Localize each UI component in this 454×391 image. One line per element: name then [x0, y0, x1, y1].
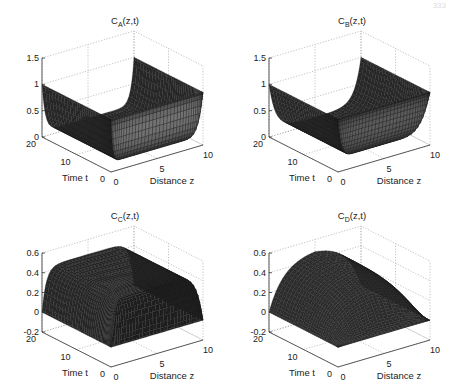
- distance-axis-label: Distance z: [377, 370, 422, 381]
- t-tick-label: 0: [100, 369, 105, 379]
- plot-panel-cd: -0.200.20.40.6010200510Time tDistance zC…: [250, 210, 440, 382]
- t-tick-label: 20: [253, 334, 263, 344]
- z-distance-tick-label: 10: [430, 345, 440, 355]
- plot-title: CD(z,t): [338, 210, 366, 223]
- t-axis-label: Time t: [62, 367, 88, 378]
- z-tick-label: 0.4: [26, 268, 39, 278]
- distance-axis-label: Distance z: [377, 175, 422, 186]
- plot-panel-ca: 00.511.5010200510Time tDistance zCA(z,t): [26, 15, 213, 187]
- t-axis-label: Time t: [289, 367, 315, 378]
- z-tick-label: 0.6: [26, 248, 39, 258]
- t-tick-label: 10: [60, 352, 70, 362]
- surface: [42, 246, 203, 347]
- z-distance-tick-label: 0: [113, 372, 118, 382]
- z-distance-tick-label: 10: [203, 150, 213, 160]
- z-distance-tick-label: 5: [159, 164, 164, 174]
- z-distance-tick-label: 5: [386, 164, 391, 174]
- z-tick-label: 0.4: [253, 268, 266, 278]
- t-tick-label: 10: [287, 352, 297, 362]
- z-tick-label: 1.5: [253, 53, 266, 63]
- z-tick-label: 0.2: [253, 288, 266, 298]
- z-tick-label: 1: [261, 79, 266, 89]
- plot-panel-cc: -0.200.20.40.6010200510Time tDistance zC…: [23, 210, 213, 382]
- z-tick-label: 0.6: [253, 248, 266, 258]
- z-distance-tick-label: 10: [203, 345, 213, 355]
- z-tick-label: 0: [261, 307, 266, 317]
- distance-axis-label: Distance z: [150, 175, 195, 186]
- plot-panel-cb: 00.511.5010200510Time tDistance zCB(z,t): [253, 15, 440, 187]
- t-tick-label: 20: [26, 334, 36, 344]
- plot-title: CA(z,t): [111, 15, 139, 28]
- z-distance-tick-label: 5: [386, 359, 391, 369]
- z-tick-label: 1.5: [26, 53, 39, 63]
- t-tick-label: 0: [327, 174, 332, 184]
- z-tick-label: 0.2: [26, 288, 39, 298]
- plot-title: CB(z,t): [338, 15, 366, 28]
- z-distance-tick-label: 5: [159, 359, 164, 369]
- distance-axis-line: [338, 340, 430, 367]
- t-tick-label: 20: [26, 139, 36, 149]
- t-tick-label: 10: [287, 157, 297, 167]
- figure-canvas: 00.511.5010200510Time tDistance zCA(z,t)…: [0, 0, 454, 391]
- surface: [269, 57, 430, 154]
- z-tick-label: 1: [34, 79, 39, 89]
- t-tick-label: 0: [100, 174, 105, 184]
- z-tick-label: 0.5: [26, 106, 39, 116]
- t-tick-label: 10: [60, 157, 70, 167]
- z-tick-label: 0: [34, 307, 39, 317]
- z-distance-tick-label: 0: [340, 372, 345, 382]
- t-axis-label: Time t: [289, 172, 315, 183]
- surface: [269, 251, 430, 347]
- t-axis-label: Time t: [62, 172, 88, 183]
- distance-axis-line: [111, 340, 203, 367]
- t-tick-label: 20: [253, 139, 263, 149]
- plot-title: CC(z,t): [111, 210, 139, 223]
- distance-axis-label: Distance z: [150, 370, 195, 381]
- z-tick-label: 0.5: [253, 106, 266, 116]
- t-tick-label: 0: [327, 369, 332, 379]
- z-distance-tick-label: 10: [430, 150, 440, 160]
- z-distance-tick-label: 0: [340, 177, 345, 187]
- surface: [42, 57, 203, 159]
- z-distance-tick-label: 0: [113, 177, 118, 187]
